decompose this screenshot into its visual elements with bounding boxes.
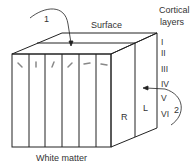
cortical-layers-label-line2: layers (160, 17, 185, 27)
arrow-1 (30, 9, 73, 46)
tick-mark (68, 63, 72, 67)
tick-mark (84, 63, 90, 64)
tick-mark (18, 63, 22, 67)
layer-label-I: I (161, 37, 163, 47)
white-matter-label: White matter (36, 153, 87, 163)
surface-label: Surface (91, 20, 122, 30)
block (12, 33, 157, 147)
arrowhead-2 (143, 86, 148, 90)
layer-label-II: II (161, 48, 166, 58)
side-l-label: L (143, 103, 148, 113)
layer-labels: I II III IV V VI (161, 37, 169, 119)
tick-mark (52, 62, 54, 67)
side-face (111, 33, 157, 147)
arrow-1-label: 1 (44, 14, 49, 24)
layer-label-VI: VI (161, 109, 169, 119)
arrow-2-label: 2 (174, 105, 179, 115)
tick-mark (101, 64, 107, 65)
cortical-column-diagram: 1 2 Surface White matter Cortical layers… (0, 0, 191, 166)
layer-label-III: III (161, 64, 168, 74)
cortical-layers-label-line1: Cortical (159, 5, 190, 15)
side-r-label: R (121, 112, 128, 122)
layer-label-IV: IV (161, 79, 169, 89)
arrowhead-1 (69, 41, 73, 46)
layer-label-V: V (161, 93, 167, 103)
